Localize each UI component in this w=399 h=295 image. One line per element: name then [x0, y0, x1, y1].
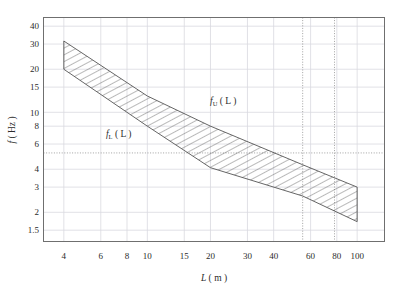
y-tick-label-15: 15 — [30, 82, 40, 92]
y-tick-label-30: 30 — [30, 39, 40, 49]
chart-figure: 46810152030406080100 1.5234681015203040 … — [0, 0, 399, 295]
y-tick-label-8: 8 — [35, 121, 40, 131]
y-tick-label-2: 2 — [35, 207, 40, 217]
x-tick-label-20: 20 — [206, 251, 216, 261]
x-tick-label-40: 40 — [269, 251, 279, 261]
x-axis-title: L ( m ) — [200, 273, 227, 284]
x-tick-label-6: 6 — [99, 251, 104, 261]
x-tick-label-30: 30 — [243, 251, 253, 261]
x-tick-label-60: 60 — [306, 251, 316, 261]
y-tick-label-10: 10 — [30, 108, 40, 118]
y-tick-label-20: 20 — [30, 64, 40, 74]
x-tick-label-4: 4 — [62, 251, 67, 261]
y-tick-label-40: 40 — [30, 21, 40, 31]
y-tick-label-4: 4 — [35, 164, 40, 174]
y-tick-label-3: 3 — [35, 182, 40, 192]
x-tick-label-15: 15 — [180, 251, 190, 261]
x-tick-label-100: 100 — [350, 251, 364, 261]
frequency-band-chart: 46810152030406080100 1.5234681015203040 … — [0, 0, 399, 295]
y-tick-label-1.5: 1.5 — [28, 225, 40, 235]
x-tick-label-80: 80 — [332, 251, 342, 261]
y-tick-label-6: 6 — [35, 139, 40, 149]
y-axis-title: f ( Hz ) — [7, 116, 18, 143]
x-tick-label-8: 8 — [125, 251, 130, 261]
x-tick-label-10: 10 — [143, 251, 153, 261]
